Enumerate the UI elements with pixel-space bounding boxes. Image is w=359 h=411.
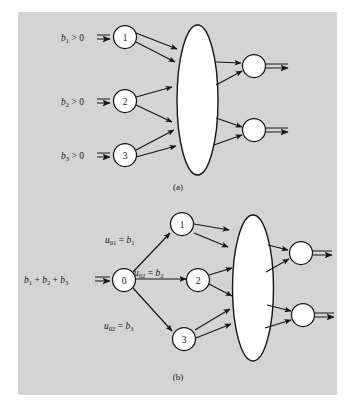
panel-b-sink-node-1[interactable] <box>290 242 313 265</box>
panel-b-sink-node-2[interactable] <box>292 304 315 327</box>
panel-b-node-2-label: 2 <box>196 276 201 286</box>
panel-b-node-2[interactable]: 2 <box>187 269 210 292</box>
panel-b-node-1-label: 1 <box>180 220 185 230</box>
panel-a-network-cloud <box>177 25 218 175</box>
panel-b-arc-label-1-eq: = <box>116 235 126 245</box>
panel-a-node-1-label: 1 <box>123 33 128 43</box>
figure-root: 1 2 3 b1 > 0 b2 > 0 b3 > 0 <box>0 0 359 411</box>
panel-b-node-1[interactable]: 1 <box>171 213 194 236</box>
panel-a-node-3[interactable]: 3 <box>114 144 137 167</box>
panel-b-node-0-label: 0 <box>122 276 127 286</box>
panel-a-node-3-label: 3 <box>123 151 128 161</box>
panel-b-node-3-label: 3 <box>182 335 187 345</box>
network-figure: 1 2 3 b1 > 0 b2 > 0 b3 > 0 <box>0 0 359 411</box>
panel-a-node-2[interactable]: 2 <box>114 90 137 113</box>
panel-b-arc-label-1-varsub: 01 <box>110 239 117 246</box>
panel-b-node-3[interactable]: 3 <box>173 328 196 351</box>
panel-b-arc-label-3-varsub: 02 <box>109 325 116 332</box>
panel-b-arc-label-2-rhssub: 2 <box>160 272 163 279</box>
panel-b-arc-label-2: u02 = b2 <box>134 268 164 279</box>
panel-a-node-1[interactable]: 1 <box>114 26 137 49</box>
panel-b-arc-label-2-eq: = <box>145 268 155 278</box>
panel-b-node-0[interactable]: 0 <box>113 269 136 292</box>
panel-a-sink-node-1[interactable] <box>243 55 266 78</box>
panel-a-node-2-label: 2 <box>123 97 128 107</box>
panel-b-network-cloud <box>233 215 274 361</box>
panel-a-input-label-3: b3 > 0 <box>61 151 84 162</box>
panel-b-arc-label-1: u01 = b1 <box>105 235 135 246</box>
panel-a-input-label-1-rel: > 0 <box>69 33 84 43</box>
panel-a-input-label-2: b2 > 0 <box>61 97 84 108</box>
panel-b-arc-label-1-rhssub: 1 <box>131 239 134 246</box>
panel-b-arc-label-3-eq: = <box>115 321 125 331</box>
panel-a-input-label-1: b1 > 0 <box>61 33 84 44</box>
panel-a-sink-node-2[interactable] <box>243 119 266 142</box>
panel-a-input-label-2-rel: > 0 <box>69 97 84 107</box>
panel-a-input-label-3-rel: > 0 <box>69 151 84 161</box>
panel-a-caption: (a) <box>173 182 183 192</box>
panel-b-caption: (b) <box>173 372 184 382</box>
panel-b-supply-plus-1: + <box>32 275 42 285</box>
panel-b-supply-plus-2: + <box>50 275 60 285</box>
panel-b-arc-label-3: u02 = b3 <box>104 321 134 332</box>
panel-b-arc-label-2-varsub: 02 <box>139 272 146 279</box>
